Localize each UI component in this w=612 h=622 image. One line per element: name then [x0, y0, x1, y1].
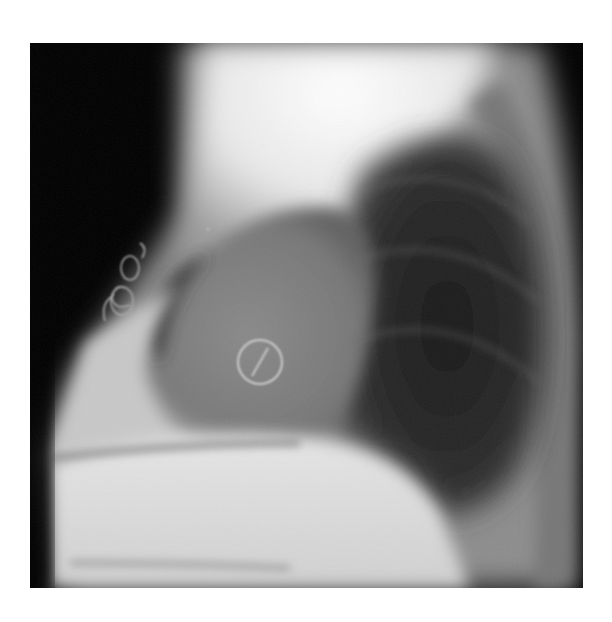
xray-image — [30, 43, 583, 588]
xray-canvas — [30, 43, 583, 588]
